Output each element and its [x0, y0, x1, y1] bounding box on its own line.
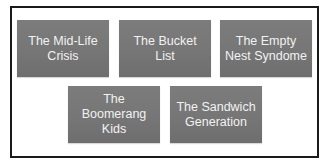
box-boomerang-kids: The Boomerang Kids — [68, 86, 160, 143]
box-bucket-list: The Bucket List — [119, 20, 211, 77]
box-label: The Bucket List — [122, 34, 208, 64]
box-label: The Sandwich Generation — [176, 100, 255, 130]
box-label: The Mid-Life Crisis — [28, 34, 97, 64]
box-empty-nest-syndome: The Empty Nest Syndome — [220, 20, 312, 77]
box-label: The Boomerang Kids — [82, 92, 147, 137]
box-label: The Empty Nest Syndome — [225, 34, 307, 64]
box-mid-life-crisis: The Mid-Life Crisis — [17, 20, 109, 77]
box-sandwich-generation: The Sandwich Generation — [170, 86, 262, 143]
